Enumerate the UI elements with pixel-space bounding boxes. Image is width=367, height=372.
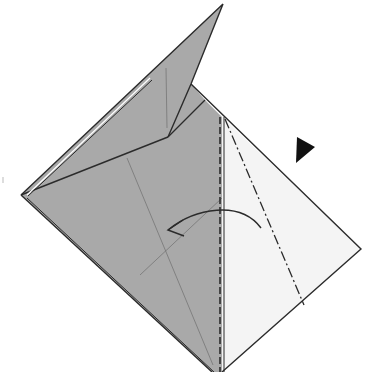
- paper-white-face: [222, 117, 361, 372]
- origami-diagram: [0, 0, 367, 372]
- push-marker-triangle-icon: [296, 137, 315, 163]
